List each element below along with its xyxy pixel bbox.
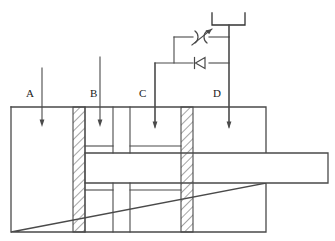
hydraulic-schematic (0, 0, 335, 241)
port-arrow-c (153, 63, 158, 129)
port-arrow-b (98, 57, 103, 127)
check-valve-icon (195, 58, 206, 69)
port-arrow-d (227, 25, 232, 129)
piston-rod (85, 153, 328, 183)
port-label-b: B (90, 88, 97, 99)
port-arrow-a (0, 68, 44, 127)
left-piston-seal (73, 107, 85, 232)
right-piston-seal (181, 107, 193, 232)
port-label-d: D (213, 88, 221, 99)
diagram-canvas: A B C D (0, 0, 335, 241)
port-label-a: A (26, 88, 34, 99)
port-label-c: C (139, 88, 146, 99)
